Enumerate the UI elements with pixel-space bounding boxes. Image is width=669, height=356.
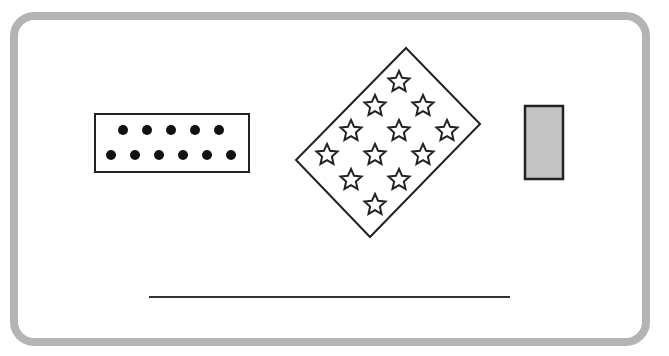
dot — [118, 125, 128, 135]
dot — [178, 150, 188, 160]
dot — [214, 125, 224, 135]
dot — [106, 150, 116, 160]
dot — [142, 125, 152, 135]
dot — [130, 150, 140, 160]
dot — [226, 150, 236, 160]
dot — [154, 150, 164, 160]
diagram-canvas — [0, 0, 669, 356]
dot — [190, 125, 200, 135]
dot — [166, 125, 176, 135]
dot — [202, 150, 212, 160]
gray-block — [525, 106, 563, 179]
dot-box — [95, 114, 249, 172]
dot-box-border — [95, 114, 249, 172]
